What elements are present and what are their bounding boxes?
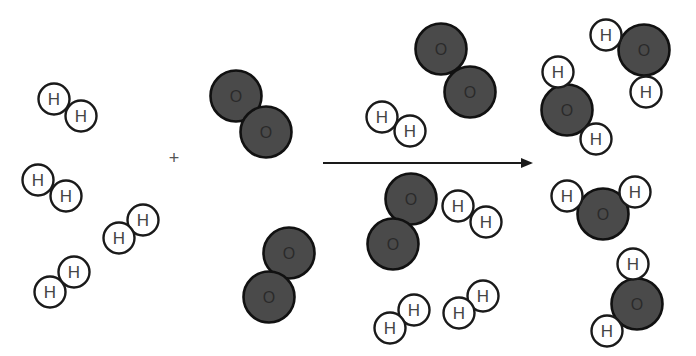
hydrogen-atom: H	[395, 116, 426, 147]
hydrogen-atom: H	[591, 20, 622, 51]
hydrogen-label: H	[408, 301, 420, 320]
oxygen-label: O	[387, 236, 399, 253]
products-group: OOOOHHHHHHHHOHHOHHOHHOHH	[367, 20, 670, 347]
oxygen-label: O	[260, 124, 272, 141]
hydrogen-atom: H	[581, 124, 612, 155]
hydrogen-label: H	[44, 283, 56, 302]
h2-molecule: HH	[104, 205, 159, 254]
hydrogen-label: H	[376, 108, 388, 127]
oxygen-atom: O	[386, 174, 437, 225]
h2-molecule: HH	[23, 165, 82, 212]
hydrogen-label: H	[552, 63, 564, 82]
oxygen-label: O	[561, 102, 573, 119]
hydrogen-label: H	[561, 187, 573, 206]
h2-molecule: HH	[443, 191, 502, 238]
h2o-molecule: OHH	[591, 20, 670, 108]
hydrogen-atom: H	[543, 57, 574, 88]
o2-molecule: OO	[416, 24, 496, 118]
hydrogen-atom: H	[66, 101, 97, 132]
hydrogen-label: H	[480, 213, 492, 232]
oxygen-label: O	[631, 296, 643, 313]
hydrogen-label: H	[384, 319, 396, 338]
oxygen-atom: O	[445, 67, 496, 118]
hydrogen-label: H	[640, 83, 652, 102]
h2o-molecule: OHH	[552, 177, 651, 240]
h2-molecule: HH	[35, 257, 90, 308]
hydrogen-label: H	[629, 183, 641, 202]
o2-molecule: OO	[211, 71, 292, 158]
oxygen-label: O	[283, 245, 295, 262]
hydrogen-atom: H	[620, 177, 651, 208]
hydrogen-atom: H	[104, 223, 135, 254]
hydrogen-label: H	[600, 26, 612, 45]
h2o-molecule: OHH	[542, 57, 612, 155]
plus-sign: +	[169, 148, 180, 168]
h2-molecule: HH	[444, 281, 499, 329]
oxygen-label: O	[405, 191, 417, 208]
hydrogen-label: H	[601, 322, 613, 341]
h2-molecule: HH	[367, 102, 426, 147]
h2o-molecule: OHH	[592, 249, 663, 347]
hydrogen-atom: H	[23, 165, 54, 196]
oxygen-atom: O	[244, 272, 295, 323]
hydrogen-atom: H	[35, 277, 66, 308]
hydrogen-label: H	[32, 171, 44, 190]
hydrogen-label: H	[404, 122, 416, 141]
hydrogen-atom: H	[444, 298, 475, 329]
hydrogen-atom: H	[39, 84, 70, 115]
reaction-diagram: HHHHHHHHOOOO + OOOOHHHHHHHHOHHOHHOHHOHH	[0, 0, 696, 356]
hydrogen-atom: H	[367, 102, 398, 133]
oxygen-atom: O	[368, 219, 419, 270]
reactants-group: HHHHHHHHOOOO	[23, 71, 315, 323]
oxygen-label: O	[263, 289, 275, 306]
hydrogen-atom: H	[631, 77, 662, 108]
hydrogen-label: H	[75, 107, 87, 126]
hydrogen-label: H	[453, 304, 465, 323]
oxygen-atom: O	[619, 25, 670, 76]
h2-molecule: HH	[39, 84, 97, 132]
reaction-canvas: HHHHHHHHOOOO + OOOOHHHHHHHHOHHOHHOHHOHH	[0, 0, 696, 356]
o2-molecule: OO	[368, 174, 437, 270]
hydrogen-label: H	[137, 211, 149, 230]
h2-molecule: HH	[375, 295, 430, 344]
hydrogen-label: H	[477, 287, 489, 306]
oxygen-label: O	[464, 84, 476, 101]
oxygen-label: O	[638, 42, 650, 59]
hydrogen-label: H	[68, 263, 80, 282]
hydrogen-label: H	[627, 255, 639, 274]
hydrogen-atom: H	[471, 207, 502, 238]
oxygen-atom: O	[241, 107, 292, 158]
hydrogen-atom: H	[552, 181, 583, 212]
oxygen-label: O	[435, 41, 447, 58]
oxygen-label: O	[597, 206, 609, 223]
oxygen-label: O	[230, 88, 242, 105]
hydrogen-atom: H	[618, 249, 649, 280]
hydrogen-atom: H	[443, 191, 474, 222]
hydrogen-label: H	[113, 229, 125, 248]
hydrogen-atom: H	[51, 181, 82, 212]
hydrogen-label: H	[452, 197, 464, 216]
hydrogen-label: H	[590, 130, 602, 149]
oxygen-atom: O	[416, 24, 467, 75]
o2-molecule: OO	[244, 228, 315, 323]
hydrogen-atom: H	[375, 313, 406, 344]
hydrogen-atom: H	[592, 316, 623, 347]
hydrogen-label: H	[60, 187, 72, 206]
hydrogen-label: H	[48, 90, 60, 109]
